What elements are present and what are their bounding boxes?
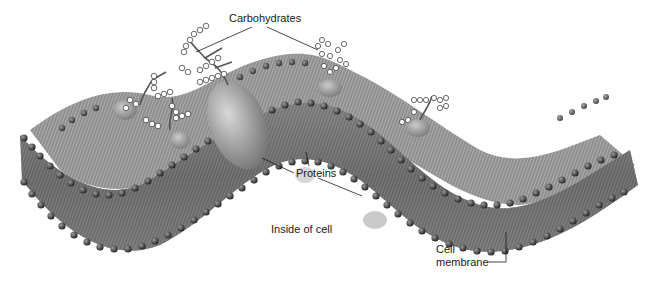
proteins-label: Proteins (296, 167, 336, 180)
carbohydrates-label: Carbohydrates (229, 12, 301, 25)
peripheral-protein-top (318, 79, 342, 97)
cell-membrane-label-line1: Cell (436, 243, 455, 256)
cell-membrane-diagram (0, 0, 649, 282)
cell-membrane-label-line2: membrane (436, 256, 489, 269)
carbohydrates-leader-left (196, 27, 252, 52)
peripheral-protein-mid (170, 131, 190, 149)
carbohydrates-leader-right (267, 27, 318, 50)
inside-of-cell-label: Inside of cell (271, 223, 332, 236)
inner-protein-bottom (363, 211, 387, 229)
